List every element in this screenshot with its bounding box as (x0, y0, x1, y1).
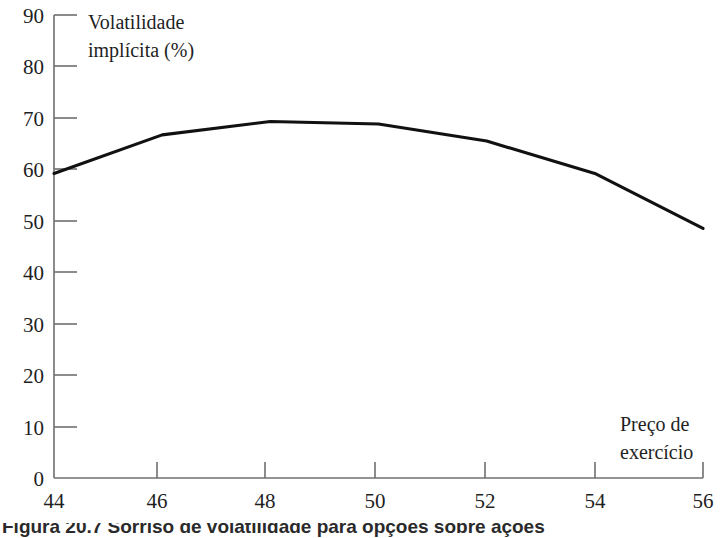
x-axis-title-line2: exercício (620, 441, 693, 463)
volatility-smile-chart: 90 80 70 60 50 40 30 20 10 0 44 46 48 50… (0, 0, 726, 538)
y-axis-title: Volatilidade implícita (%) (88, 11, 194, 62)
figure-caption: Figura 20.7 Sorriso de volatilidade para… (2, 523, 545, 538)
x-tick-label: 48 (255, 489, 276, 513)
x-axis-title: Preço de exercício (620, 413, 693, 463)
x-tick-label: 54 (585, 489, 607, 513)
y-tick-label: 40 (23, 261, 44, 285)
figure-caption-strip: Figura 20.7 Sorriso de volatilidade para… (0, 523, 726, 538)
x-tick-label: 50 (365, 489, 386, 513)
y-tick-label: 60 (23, 158, 44, 182)
y-tick-label: 90 (23, 4, 44, 28)
x-tick-label: 46 (147, 489, 168, 513)
y-axis-title-line2: implícita (%) (88, 39, 194, 62)
x-tick-label: 56 (693, 489, 714, 513)
figure-container: 90 80 70 60 50 40 30 20 10 0 44 46 48 50… (0, 0, 726, 538)
x-tick-marks (157, 462, 703, 478)
y-tick-label: 10 (23, 416, 44, 440)
volatility-smile-line (54, 121, 703, 228)
y-tick-label: 50 (23, 210, 44, 234)
y-tick-label: 80 (23, 55, 44, 79)
y-axis-title-line1: Volatilidade (88, 11, 184, 33)
x-axis-title-line1: Preço de (620, 413, 690, 436)
y-tick-label: 30 (23, 313, 44, 337)
x-tick-labels: 44 46 48 50 52 54 56 (44, 489, 714, 513)
x-tick-label: 52 (475, 489, 496, 513)
y-tick-marks (54, 15, 77, 427)
y-tick-label: 20 (23, 364, 44, 388)
y-tick-label: 0 (34, 467, 45, 491)
y-tick-labels: 90 80 70 60 50 40 30 20 10 0 (23, 4, 44, 491)
y-tick-label: 70 (23, 107, 44, 131)
x-tick-label: 44 (44, 489, 66, 513)
